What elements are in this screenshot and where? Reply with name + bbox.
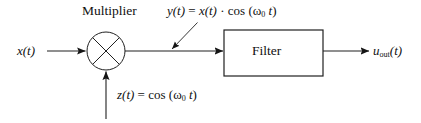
- z-equation-close-paren: ): [193, 87, 197, 102]
- z-equation-label: z(t) = cos (ω0 t): [117, 88, 197, 103]
- y-equation-close-paren: ): [272, 3, 276, 18]
- z-equation-lhs: z(t): [117, 87, 134, 102]
- y-equation-omega: ω: [253, 3, 262, 18]
- y-equation-lhs: y(t): [167, 3, 185, 18]
- y-equation-equals: =: [188, 3, 195, 18]
- input-signal-label: x(t): [17, 44, 35, 57]
- y-equation-factor: x(t): [199, 3, 217, 18]
- y-annotation-pointer: [172, 23, 198, 50]
- z-equation-cos: cos: [148, 87, 165, 102]
- y-equation-cos: cos: [228, 3, 245, 18]
- y-equation-label: y(t) = x(t) · cos (ω0 t): [167, 4, 277, 19]
- z-equation-omega: ω: [173, 87, 182, 102]
- diagram-canvas: Multiplier y(t) = x(t) · cos (ω0 t) x(t)…: [0, 0, 421, 123]
- output-signal-label: uout(t): [373, 44, 402, 59]
- filter-label: Filter: [252, 44, 281, 58]
- output-signal-arg: (t): [390, 43, 402, 58]
- output-signal-subscript: out: [380, 50, 390, 59]
- z-equation-equals: =: [138, 87, 145, 102]
- multiplier-label: Multiplier: [82, 4, 137, 18]
